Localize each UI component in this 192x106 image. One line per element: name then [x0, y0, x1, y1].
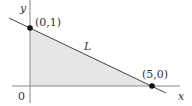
x-axis-label: x: [178, 90, 185, 103]
point-5-0: [149, 83, 155, 89]
origin-label: 0: [18, 90, 25, 103]
line-L-label: L: [83, 40, 91, 53]
y-axis-label: y: [19, 2, 27, 15]
point-0-1: [27, 25, 33, 31]
point-0-1-label: (0,1): [35, 16, 61, 29]
point-5-0-label: (5,0): [142, 68, 168, 81]
diagram: y x 0 (0,1) (5,0) L: [0, 0, 192, 106]
